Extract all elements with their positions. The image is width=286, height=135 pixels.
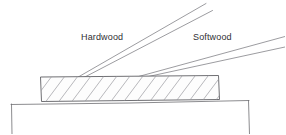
table-group [11, 101, 250, 135]
softwood-leader-line-upper [135, 37, 285, 78]
table-left-leg [12, 104, 13, 134]
label-softwood: Softwood [193, 33, 232, 42]
softwood-leader-line-lower [142, 47, 286, 78]
table-right-leg [249, 101, 250, 135]
hardwood-leader-line-lower [83, 11, 213, 79]
label-hardwood: Hardwood [81, 33, 123, 42]
board-group [28, 68, 240, 108]
technical-sketch-figure: Hardwood Softwood [0, 0, 285, 134]
sketch-canvas [0, 0, 285, 134]
softwood-leader-lines [135, 37, 285, 79]
